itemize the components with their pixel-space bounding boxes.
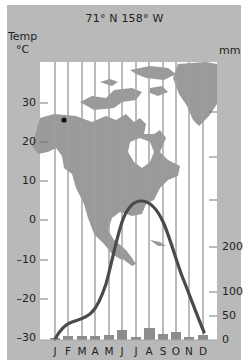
left-tick-minus10: –10 [6, 254, 36, 266]
right-tick-200: 200 [222, 241, 249, 253]
month-label-jan: J [48, 345, 62, 357]
plot-area [0, 0, 249, 360]
right-tick-100: 100 [222, 286, 249, 298]
location-marker [61, 117, 66, 122]
month-label-sep: S [156, 345, 170, 357]
month-label-nov: N [182, 345, 196, 357]
month-label-apr: A [88, 345, 102, 357]
left-tick-20: 20 [6, 136, 36, 148]
left-tick-0: 0 [6, 214, 36, 226]
right-tick-50: 50 [222, 310, 249, 322]
month-label-may: M [102, 345, 116, 357]
month-label-mar: M [75, 345, 89, 357]
left-tick-10: 10 [6, 175, 36, 187]
month-label-oct: O [169, 345, 183, 357]
month-label-jun: J [115, 345, 129, 357]
month-label-feb: F [61, 345, 75, 357]
month-label-dec: D [196, 345, 210, 357]
month-label-aug: A [142, 345, 156, 357]
left-tick-minus30: –30 [6, 332, 36, 344]
left-tick-minus20: –20 [6, 293, 36, 305]
right-tick-0: 0 [222, 334, 249, 346]
left-tick-30: 30 [6, 97, 36, 109]
month-label-jul: J [129, 345, 143, 357]
